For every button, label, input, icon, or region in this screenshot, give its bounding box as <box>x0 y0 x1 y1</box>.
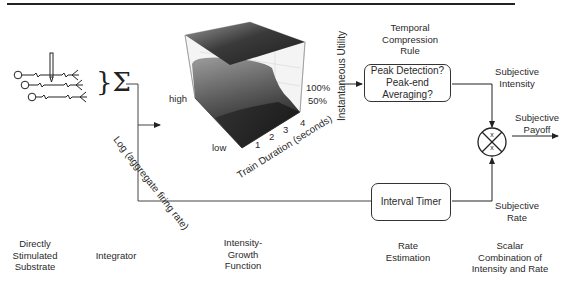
stage-caption-combination: Scalar Combination of Intensity and Rate <box>465 240 555 275</box>
neuron-substrate-icon <box>14 53 87 102</box>
temporal-rule-title: Temporal Compression Rule <box>370 22 450 57</box>
subjective-payoff-label: Subjective Payoff <box>502 112 572 135</box>
multiplier-x-bottom: x <box>488 142 496 154</box>
x-tick-3: 3 <box>283 124 288 136</box>
z-tick-50: 50% <box>308 95 327 107</box>
stage-caption-substrate: Directly Stimulated Substrate <box>5 238 65 273</box>
subjective-intensity-label: Subjective Intensity <box>482 66 552 89</box>
y-tick-low: low <box>212 142 226 154</box>
temporal-rule-box: Peak Detection? Peak-end Averaging? <box>364 64 451 102</box>
x-tick-2: 2 <box>269 131 274 143</box>
z-tick-100: 100% <box>306 82 330 94</box>
stage-caption-growth: Intensity- Growth Function <box>220 237 266 272</box>
integrator-sigma-icon: }Σ <box>96 68 131 96</box>
stage-caption-rate: Rate Estimation <box>378 240 438 263</box>
y-tick-high: high <box>169 93 187 105</box>
multiplier-x-top: x <box>488 129 496 141</box>
x-tick-1: 1 <box>255 139 260 151</box>
z-axis-label: Instantaneous Utility <box>336 31 348 121</box>
subjective-rate-label: Subjective Rate <box>482 200 552 223</box>
stage-caption-integrator: Integrator <box>88 250 144 262</box>
interval-timer-box: Interval Timer <box>371 183 451 221</box>
